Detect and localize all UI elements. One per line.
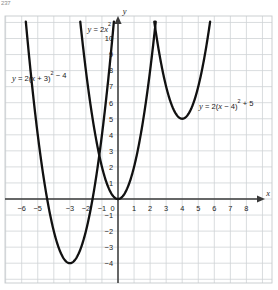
x-tick-label: −5	[34, 204, 42, 213]
y-tick-label: 4	[109, 131, 113, 140]
y-tick-label: 3	[109, 147, 113, 156]
x-tick-label: 5	[196, 204, 200, 213]
x-tick-label: 8	[244, 204, 248, 213]
x-tick-label: 7	[228, 204, 232, 213]
y-tick-label: 5	[109, 115, 113, 124]
y-tick-label: −2	[105, 227, 113, 236]
x-tick-label: −6	[17, 204, 25, 213]
x-tick-label: 4	[180, 204, 184, 213]
x-tick-label: 3	[164, 204, 168, 213]
y-tick-label: 2	[109, 163, 113, 172]
y-tick-label: 7	[109, 82, 113, 91]
y-tick-label: 6	[109, 99, 113, 108]
graph-figure: 237 −6−5−3−2−1012345678 10987654321−1−2−…	[0, 0, 278, 290]
x-tick-label: −3	[66, 204, 74, 213]
x-tick-label: 2	[148, 204, 152, 213]
y-axis-label: y	[122, 7, 127, 16]
y-tick-label: −3	[105, 243, 113, 252]
x-axis-label: x	[265, 189, 270, 198]
y-tick-label: −1	[105, 211, 113, 220]
x-tick-label: 6	[212, 204, 216, 213]
y-tick-label: 1	[109, 179, 113, 188]
y-tick-label: −4	[105, 259, 113, 268]
x-tick-label: −2	[82, 204, 90, 213]
coordinate-plane: −6−5−3−2−1012345678 10987654321−1−2−3−4 …	[0, 0, 278, 290]
x-tick-label: 1	[132, 204, 136, 213]
